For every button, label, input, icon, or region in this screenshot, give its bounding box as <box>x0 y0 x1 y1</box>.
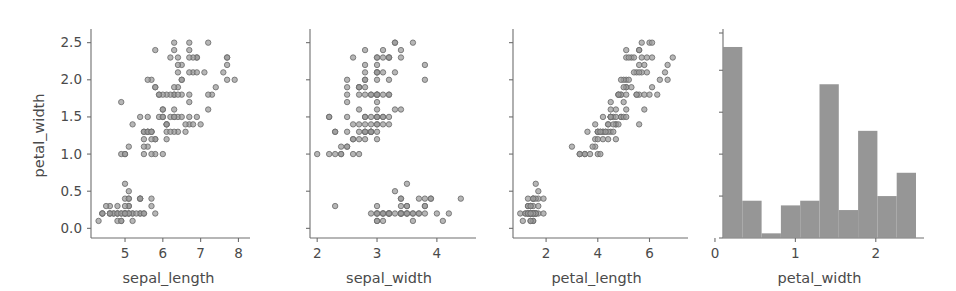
plot-canvas-1: 234sepal_width <box>250 0 480 291</box>
x-tick-label: 0 <box>711 245 720 261</box>
y-axis-ticks <box>509 43 513 229</box>
y-tick-label: 0.0 <box>61 220 82 236</box>
scatter-points <box>314 40 463 224</box>
y-tick-label: 0.5 <box>61 183 82 199</box>
y-axis-label: petal_width <box>31 94 47 178</box>
y-axis-ticks <box>719 33 723 238</box>
scatter-panel-sepal-width: 234sepal_width <box>250 0 480 291</box>
x-tick-label: 7 <box>196 245 205 261</box>
x-axis-label: petal_width <box>778 270 862 286</box>
scatter-points <box>518 40 676 224</box>
x-tick-label: 5 <box>121 245 130 261</box>
x-axis-ticks: 246 <box>542 238 654 261</box>
x-tick-label: 4 <box>433 245 442 261</box>
x-axis-ticks: 012 <box>711 238 880 261</box>
x-tick-label: 6 <box>645 245 654 261</box>
histogram-panel-petal-width: 012petal_width <box>710 0 956 291</box>
x-axis-ticks: 5678 <box>121 238 243 261</box>
y-tick-label: 1.5 <box>61 108 82 124</box>
x-tick-label: 3 <box>373 245 382 261</box>
plot-canvas-0: 0.00.51.01.52.02.55678sepal_lengthpetal_… <box>0 0 250 291</box>
x-tick-label: 2 <box>542 245 551 261</box>
plot-canvas-2: 246petal_length <box>480 0 710 291</box>
x-axis-label: sepal_width <box>346 270 432 286</box>
x-tick-label: 8 <box>234 245 243 261</box>
scatter-points <box>96 40 238 224</box>
y-axis-ticks: 0.00.51.01.52.02.5 <box>61 34 91 236</box>
x-tick-label: 1 <box>791 245 800 261</box>
x-axis-label: petal_length <box>551 270 641 286</box>
x-tick-label: 6 <box>159 245 168 261</box>
x-tick-label: 2 <box>313 245 322 261</box>
pairplot-figure: 0.00.51.01.52.02.55678sepal_lengthpetal_… <box>0 0 956 291</box>
x-tick-label: 2 <box>871 245 880 261</box>
y-tick-label: 2.5 <box>61 34 82 50</box>
x-axis-label: sepal_length <box>122 270 214 286</box>
histogram-bars <box>723 47 916 238</box>
scatter-panel-petal-length: 246petal_length <box>480 0 710 291</box>
scatter-panel-sepal-length: 0.00.51.01.52.02.55678sepal_lengthpetal_… <box>0 0 250 291</box>
y-axis-ticks <box>306 43 310 229</box>
x-tick-label: 4 <box>593 245 602 261</box>
y-tick-label: 1.0 <box>61 146 82 162</box>
y-tick-label: 2.0 <box>61 71 82 87</box>
x-axis-ticks: 234 <box>313 238 441 261</box>
plot-canvas-3: 012petal_width <box>710 0 956 291</box>
